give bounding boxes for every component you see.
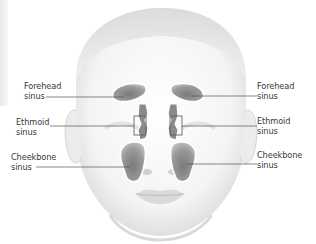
label-ethmoid-sinus-right: Ethmoid sinus — [257, 116, 290, 136]
head — [65, 8, 257, 240]
label-line1: Forehead — [24, 81, 61, 91]
label-line1: Ethmoid — [16, 117, 49, 127]
label-line1: Ethmoid — [257, 116, 290, 126]
label-line2: sinus — [257, 160, 302, 170]
label-line1: Forehead — [257, 81, 294, 91]
label-line2: sinus — [16, 127, 49, 137]
label-line2: sinus — [257, 126, 290, 136]
sinus-diagram: Forehead sinus Ethmoid sinus Cheekbone s… — [0, 0, 316, 244]
label-line1: Cheekbone — [257, 150, 302, 160]
label-forehead-sinus-left: Forehead sinus — [24, 81, 61, 101]
label-cheekbone-sinus-left: Cheekbone sinus — [11, 152, 56, 172]
label-line2: sinus — [257, 91, 294, 101]
label-forehead-sinus-right: Forehead sinus — [257, 81, 294, 101]
label-line2: sinus — [11, 162, 56, 172]
label-line1: Cheekbone — [11, 152, 56, 162]
label-ethmoid-sinus-left: Ethmoid sinus — [16, 117, 49, 137]
label-cheekbone-sinus-right: Cheekbone sinus — [257, 150, 302, 170]
label-line2: sinus — [24, 91, 61, 101]
